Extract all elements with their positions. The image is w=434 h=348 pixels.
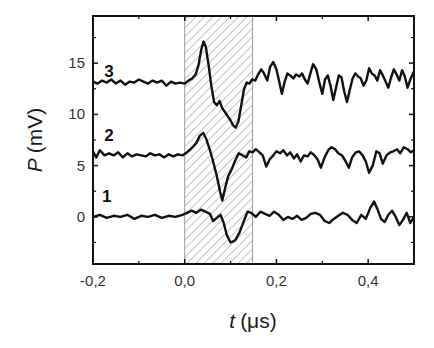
y-axis-title-var: P — [23, 158, 46, 172]
x-axis-title-unit: (μs) — [240, 309, 277, 332]
x-tick-label: 0,0 — [174, 272, 195, 289]
y-tick-label: 0 — [77, 208, 85, 225]
x-axis-title-var: t — [229, 309, 236, 332]
x-tick-label: -0,2 — [80, 272, 106, 289]
y-tick-label: 15 — [68, 54, 85, 71]
x-tick-label: 0,4 — [358, 272, 379, 289]
plot-frame — [93, 16, 414, 264]
trace-label-2: 2 — [104, 126, 113, 145]
trace-1 — [93, 202, 414, 243]
y-axis-title-unit: (mV) — [23, 108, 46, 154]
traces — [93, 42, 414, 243]
chart: -0,20,00,20,4 051015 123 t(μs) P(mV) — [0, 0, 434, 348]
x-tick-label: 0,2 — [266, 272, 287, 289]
trace-3 — [93, 42, 414, 128]
y-axis-title: P(mV) — [23, 108, 46, 173]
y-tick-label: 5 — [77, 157, 85, 174]
x-axis-title: t(μs) — [229, 309, 276, 332]
trace-label-1: 1 — [102, 187, 111, 206]
trace-label-3: 3 — [104, 62, 113, 81]
trace-labels: 123 — [102, 62, 114, 206]
y-tick-label: 10 — [68, 105, 85, 122]
trace-2 — [93, 133, 414, 201]
